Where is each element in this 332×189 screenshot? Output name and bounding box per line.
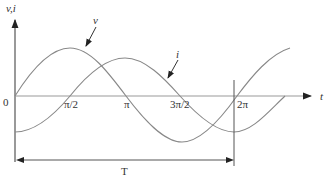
origin-label: 0 <box>3 96 9 108</box>
v-curve-label: v <box>93 14 98 26</box>
sinusoid-diagram: v,i t 0 π/2 π 3π/2 2π v i T <box>0 0 332 189</box>
tick-label-pi-over-2: π/2 <box>64 98 78 110</box>
x-axis-label: t <box>320 90 324 102</box>
tick-label-2pi: 2π <box>237 98 249 110</box>
i-curve <box>15 58 285 132</box>
i-pointer-arrow <box>168 60 178 78</box>
y-axis-label: v,i <box>6 2 16 14</box>
v-pointer-arrow <box>86 27 96 46</box>
period-arrow-right-head <box>226 157 234 163</box>
period-arrow-left-head <box>16 157 24 163</box>
period-label: T <box>121 165 128 177</box>
tick-label-3pi-over-2: 3π/2 <box>170 98 190 110</box>
tick-label-pi: π <box>124 98 130 110</box>
i-curve-label: i <box>176 48 179 60</box>
